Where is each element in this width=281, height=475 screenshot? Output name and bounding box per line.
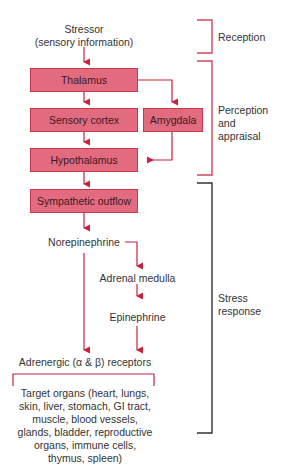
epinephrine-label: Epinephrine bbox=[100, 311, 175, 324]
stressor-sublabel: (sensory information) bbox=[30, 36, 138, 49]
sensory-cortex-box: Sensory cortex bbox=[30, 108, 138, 132]
adrenal-medulla-label: Adrenal medulla bbox=[95, 272, 180, 285]
target-organs-line: skin, liver, stomach, GI tract, bbox=[5, 400, 165, 413]
receptors-label: Adrenergic (α & β) receptors bbox=[10, 356, 160, 369]
stage-perception-line: and bbox=[218, 117, 268, 130]
target-organs-line: organs, immune cells, bbox=[5, 439, 165, 452]
stage-stress-line: response bbox=[218, 305, 261, 318]
target-organs-line: thymus, spleen) bbox=[5, 452, 165, 465]
stage-perception: Perception and appraisal bbox=[218, 104, 268, 143]
amygdala-box: Amygdala bbox=[143, 108, 203, 132]
stage-reception: Reception bbox=[218, 31, 265, 44]
sympathetic-outflow-box: Sympathetic outflow bbox=[30, 189, 138, 213]
stage-stress-response: Stress response bbox=[218, 292, 261, 318]
target-organs-line: Target organs (heart, lungs, bbox=[5, 387, 165, 400]
stage-perception-line: Perception bbox=[218, 104, 268, 117]
thalamus-box: Thalamus bbox=[30, 68, 138, 92]
stage-stress-line: Stress bbox=[218, 292, 261, 305]
norepinephrine-label: Norepinephrine bbox=[30, 236, 138, 249]
stage-perception-line: appraisal bbox=[218, 130, 268, 143]
stressor-node: Stressor (sensory information) bbox=[30, 23, 138, 49]
target-organs-text: Target organs (heart, lungs, skin, liver… bbox=[5, 387, 165, 465]
target-organs-line: muscle, blood vessels, bbox=[5, 413, 165, 426]
hypothalamus-box: Hypothalamus bbox=[30, 148, 138, 172]
stressor-label: Stressor bbox=[30, 23, 138, 36]
target-organs-line: glands, bladder, reproductive bbox=[5, 426, 165, 439]
